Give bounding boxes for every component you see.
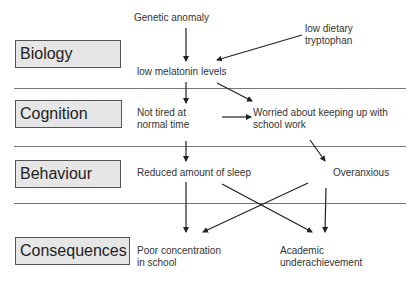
arrow-worried-to-overanxious	[310, 140, 325, 161]
arrow-overanxious-to-poorconc	[203, 183, 308, 232]
arrow-melatonin-to-worried	[217, 83, 252, 101]
arrows-layer	[0, 0, 418, 281]
arrow-overanxious-to-academic	[325, 188, 326, 232]
arrow-reduced-to-academic	[222, 184, 312, 232]
arrow-tryptophan-to-melatonin	[217, 35, 302, 60]
